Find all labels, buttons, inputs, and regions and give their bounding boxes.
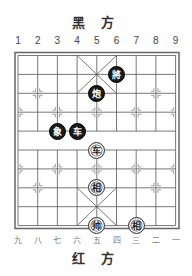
column-label: 九: [11, 234, 25, 245]
column-label: 三: [129, 234, 143, 245]
red-side-label: 红 方: [0, 248, 192, 267]
black-chariot-piece[interactable]: 车: [69, 123, 86, 140]
black-cannon-piece[interactable]: 炮: [88, 85, 105, 102]
column-label: 二: [149, 234, 163, 245]
red-chariot-piece[interactable]: 车: [88, 142, 105, 159]
column-label: 八: [31, 234, 45, 245]
column-label: 一: [169, 234, 183, 245]
column-label: 五: [90, 234, 104, 245]
column-label: 六: [70, 234, 84, 245]
column-label: 七: [50, 234, 64, 245]
black-general-piece[interactable]: 將: [108, 66, 125, 83]
red-elephant-right-piece[interactable]: 相: [128, 217, 145, 234]
black-elephant-piece[interactable]: 象: [49, 123, 66, 140]
column-label: 四: [110, 234, 124, 245]
